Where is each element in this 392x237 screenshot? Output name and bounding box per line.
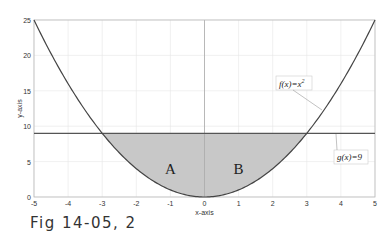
figure-caption: Fig 14-05, 2 xyxy=(30,214,137,232)
region-label-A: A xyxy=(165,161,176,177)
y-tick-label: 20 xyxy=(23,52,31,59)
x-tick-label: -5 xyxy=(31,200,37,207)
x-tick-label: 5 xyxy=(373,200,377,207)
parabola-chart: -5-4-3-2-10123450510152025ABx-axisy-axis… xyxy=(0,0,392,237)
x-tick-label: -1 xyxy=(167,200,173,207)
annotation-arrow-g xyxy=(336,134,337,150)
y-tick-label: 10 xyxy=(23,123,31,130)
y-tick-label: 0 xyxy=(27,194,31,201)
x-tick-label: 4 xyxy=(339,200,343,207)
annotation-g: g(x)=9 xyxy=(337,152,363,162)
annotation-arrow-f xyxy=(293,90,322,110)
y-tick-label: 5 xyxy=(27,159,31,166)
y-tick-label: 15 xyxy=(23,88,31,95)
x-tick-label: 3 xyxy=(305,200,309,207)
region-label-B: B xyxy=(234,161,244,177)
x-tick-label: 0 xyxy=(203,200,207,207)
x-tick-label: -4 xyxy=(65,200,71,207)
x-tick-label: 2 xyxy=(271,200,275,207)
x-axis-label: x-axis xyxy=(195,209,214,216)
annotation-f: f(x)=x2 xyxy=(279,78,305,89)
x-tick-label: 1 xyxy=(237,200,241,207)
y-axis-label: y-axis xyxy=(16,99,24,118)
x-tick-label: -3 xyxy=(99,200,105,207)
x-tick-label: -2 xyxy=(133,200,139,207)
y-tick-label: 25 xyxy=(23,17,31,24)
